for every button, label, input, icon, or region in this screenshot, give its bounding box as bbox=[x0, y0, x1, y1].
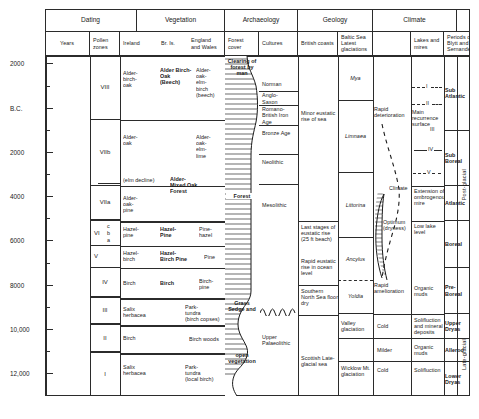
climate-climate-label: Climate bbox=[389, 185, 413, 191]
baltic-label: Mya bbox=[350, 75, 360, 81]
stage-late-glacial: Late-glacial bbox=[457, 314, 470, 396]
culture-norman: Norman bbox=[259, 78, 298, 92]
forest-cover-mid-label: Forest bbox=[226, 193, 258, 199]
climate-cold-upper: Cold bbox=[373, 314, 411, 339]
veg-ireland-V: Hazel- birch bbox=[123, 250, 159, 262]
baltic-valley-glaciation: Valley glaciation bbox=[338, 314, 373, 339]
climate-label: Rapid deterioration bbox=[374, 106, 405, 118]
pollen-zone-V: V bbox=[90, 246, 120, 268]
recurrence-dash-left bbox=[412, 104, 425, 105]
culture-label: Mesolithic bbox=[262, 202, 286, 208]
baltic-wicklow-glaciation: Wicklow Mt. glaciation bbox=[338, 362, 373, 396]
lakes-label: Solifluction and mineral deposits bbox=[414, 317, 444, 336]
coast-label: Scottish Late- glacial sea bbox=[301, 355, 335, 367]
coast-north-sea-dry: Southern North Sea floor dry bbox=[298, 285, 338, 315]
forest-label: Forest bbox=[234, 193, 251, 199]
header-group-label: Dating bbox=[81, 16, 100, 24]
subhead-baltic-sea: Baltic Sea Latest glaciations bbox=[338, 31, 373, 56]
culture-label: Anglo- Saxon bbox=[262, 92, 278, 104]
veg-rule-3 bbox=[120, 221, 225, 223]
coast-rapid-eustatic: Rapid eustatic rise in ocean level bbox=[298, 255, 338, 285]
mesolithic-boundary-wave bbox=[260, 304, 296, 316]
climate-cold-lower: Cold bbox=[373, 362, 411, 396]
pollen-zone-label: VI bbox=[94, 230, 100, 237]
veg-ew-I: Park- tundra (local birch) bbox=[185, 364, 227, 383]
subhead-label: Years bbox=[60, 40, 74, 46]
culture-anglo-saxon: Anglo- Saxon bbox=[259, 92, 298, 106]
veg-text: Alder- birch- oak bbox=[123, 70, 138, 88]
lakes-organic-muds-2: Organic muds bbox=[411, 339, 444, 362]
culture-bronze-age: Bronze Age bbox=[259, 126, 298, 155]
axis-label-bc: B.C. bbox=[10, 105, 22, 112]
veg-text: Salix herbacea bbox=[123, 306, 146, 318]
veg-bris-mixed-oak: Alder- Mixed Oak Forest bbox=[170, 176, 206, 195]
recurrence-dash-right bbox=[432, 104, 442, 105]
baltic-littorina: Littorina bbox=[338, 173, 373, 238]
culture-label: Norman bbox=[262, 81, 281, 87]
veg-bris-VI: Hazel- Pine bbox=[160, 226, 198, 238]
recurrence-numeral: I bbox=[426, 84, 428, 89]
subhead-blytt-sernander: Periods of Blytt and Sernander bbox=[444, 31, 470, 56]
culture-label: Upper Palaeolithic bbox=[262, 334, 298, 346]
subhead-british-coasts: British coasts bbox=[298, 31, 338, 56]
recurrence-numeral: II bbox=[426, 101, 429, 106]
climate-optimum: Optimum (dryness) bbox=[383, 219, 413, 231]
pollen-zone-VIII: VIII bbox=[90, 56, 120, 120]
stage-label: Late-glacial bbox=[461, 339, 467, 370]
axis-label-2000bc: 2000 bbox=[10, 149, 24, 156]
veg-bris-VIII: Alder Birch- Oak (Beech) bbox=[160, 67, 192, 86]
baltic-ancylus: Ancylus bbox=[338, 238, 373, 280]
culture-upper-palaeolithic: Upper Palaeolithic bbox=[259, 320, 298, 360]
lakes-low-lake-level: Low lake level bbox=[411, 221, 444, 251]
header-group-archaeology: Archaeology bbox=[225, 9, 298, 31]
veg-text: Park- tundra (birch copses) bbox=[185, 304, 220, 322]
header-group-dating: Dating bbox=[45, 9, 137, 31]
baltic-label: Yoldia bbox=[348, 293, 363, 299]
forest-cover-bottom-label: open vegetation bbox=[224, 352, 260, 364]
subhead-british-isles: Br. Is. bbox=[158, 31, 188, 56]
pollen-zone-label: IV bbox=[102, 279, 108, 286]
subhead-ireland: Ireland bbox=[120, 31, 158, 56]
veg-text: Birch bbox=[160, 280, 174, 286]
lakes-label: Low lake level bbox=[414, 223, 444, 235]
lakes-label: Solifluction bbox=[414, 367, 441, 373]
header-group-label: Archaeology bbox=[243, 16, 280, 24]
header-group-geology: Geology bbox=[298, 9, 373, 31]
header-group-label: Geology bbox=[323, 16, 348, 24]
veg-rule-8 bbox=[120, 353, 225, 355]
axis-label-2000ad: 2000 bbox=[10, 60, 24, 67]
baltic-label: Littorina bbox=[346, 202, 366, 208]
forest-label: open vegetation bbox=[228, 352, 255, 364]
elm-decline-marker bbox=[98, 183, 120, 184]
veg-text: Hazel- Pine bbox=[160, 226, 176, 238]
veg-text: Birch bbox=[123, 335, 136, 341]
axis-label-6000: 6000 bbox=[10, 237, 24, 244]
veg-text: Alder- oak- pine bbox=[123, 195, 138, 213]
recurrence-numeral: IV bbox=[428, 147, 433, 152]
subhead-label: England and Wales bbox=[191, 37, 221, 49]
veg-rule-6 bbox=[120, 298, 225, 300]
baltic-limnaea: Limnaea bbox=[338, 101, 373, 173]
forest-cover-top-label: Clearing of forest by man bbox=[226, 58, 258, 77]
recurrence-numeral: V bbox=[427, 170, 431, 175]
coast-scottish-sea: Scottish Late- glacial sea bbox=[298, 352, 338, 392]
veg-ireland-II: Birch bbox=[123, 335, 159, 341]
pollen-zone-VIIa: VIIa bbox=[90, 186, 120, 221]
climate-label: Cold bbox=[377, 323, 388, 329]
veg-ew-VI: Pine- hazel bbox=[199, 226, 227, 238]
veg-ireland-VIII: Alder- birch- oak bbox=[123, 70, 159, 89]
veg-ew-III: Park- tundra (birch copses) bbox=[185, 304, 227, 323]
pollen-subzone-a: a bbox=[107, 237, 110, 243]
recurrence-dash-right bbox=[434, 150, 442, 151]
pollen-zone-VIIb: VIIb bbox=[90, 120, 120, 186]
pollen-zone-label: VIII bbox=[100, 84, 109, 91]
veg-ireland-VIIa: Alder- oak- pine bbox=[123, 195, 159, 214]
veg-text: Pine bbox=[204, 254, 215, 260]
recurrence-dash-left bbox=[412, 87, 425, 88]
pollen-zone-label: V bbox=[94, 253, 98, 260]
veg-rule-1 bbox=[120, 120, 225, 121]
recurrence-dash-right bbox=[432, 173, 441, 174]
baltic-blank bbox=[338, 339, 373, 362]
header-group-label: Climate bbox=[403, 16, 425, 24]
lakes-label: Main recurrence surface bbox=[412, 109, 438, 127]
